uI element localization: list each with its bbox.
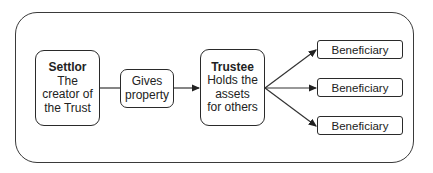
trustee-line: for others — [207, 101, 258, 115]
beneficiary-node-3: Beneficiary — [317, 116, 403, 135]
gives-line: property — [125, 89, 169, 103]
trustee-line: Holds the — [207, 74, 258, 88]
settlor-node: Settlor The creator of the Trust — [35, 50, 100, 126]
settlor-line: The — [57, 75, 78, 89]
beneficiary-node-1: Beneficiary — [317, 40, 403, 59]
beneficiary-label: Beneficiary — [332, 120, 389, 132]
beneficiary-label: Beneficiary — [332, 44, 389, 56]
gives-line: Gives — [132, 75, 163, 89]
settlor-title: Settlor — [48, 61, 86, 75]
beneficiary-label: Beneficiary — [332, 82, 389, 94]
gives-property-node: Gives property — [120, 69, 174, 108]
trustee-line: assets — [215, 88, 250, 102]
beneficiary-node-2: Beneficiary — [317, 78, 403, 97]
settlor-line: the Trust — [44, 102, 91, 116]
edge-trustee-beneficiary-3 — [265, 88, 316, 126]
trustee-title: Trustee — [211, 61, 254, 75]
trustee-node: Trustee Holds the assets for others — [200, 49, 265, 126]
edge-trustee-beneficiary-1 — [265, 50, 316, 88]
settlor-line: creator of — [42, 88, 93, 102]
